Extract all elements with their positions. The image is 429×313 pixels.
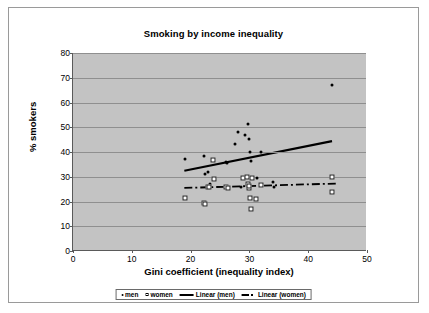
- x-axis-tick-label: 50: [362, 254, 371, 264]
- y-axis-tick-label: 20: [61, 197, 70, 207]
- y-axis-tick-mark: [70, 127, 73, 128]
- solid-line-icon: [180, 294, 194, 296]
- data-point-women: [248, 206, 253, 211]
- gridline: [73, 152, 366, 153]
- legend-label-women: women: [150, 291, 172, 298]
- gridline: [73, 226, 366, 227]
- y-axis-tick-label: 10: [61, 221, 70, 231]
- data-point-women: [329, 174, 334, 179]
- gridline: [73, 103, 366, 104]
- data-point-men: [203, 155, 206, 158]
- gridline: [73, 53, 366, 54]
- data-point-women: [182, 196, 187, 201]
- x-axis-tick-label: 40: [303, 254, 312, 264]
- data-point-men: [260, 151, 263, 154]
- y-axis-tick-label: 50: [61, 122, 70, 132]
- x-axis-tick-mark: [132, 250, 133, 253]
- open-square-icon: [145, 293, 148, 296]
- data-point-women: [259, 182, 264, 187]
- dash-dot-line-icon: [242, 294, 256, 296]
- y-axis-tick-mark: [70, 177, 73, 178]
- data-point-men: [256, 177, 259, 180]
- plot-area: 0102030405060708001020304050: [72, 53, 366, 251]
- data-point-women: [254, 197, 259, 202]
- legend-label-linear-men: Linear (men): [196, 291, 235, 298]
- y-axis-tick-mark: [70, 78, 73, 79]
- y-axis-tick-label: 70: [61, 73, 70, 83]
- x-axis-tick-mark: [367, 250, 368, 253]
- gridline: [73, 127, 366, 128]
- legend-item-women: women: [145, 291, 172, 298]
- data-point-men: [234, 143, 237, 146]
- data-point-men: [203, 173, 206, 176]
- chart-page: Smoking by income inequality % smokers 0…: [0, 0, 429, 313]
- data-point-women: [210, 157, 215, 162]
- x-axis-tick-label: 10: [127, 254, 136, 264]
- page-title: Smoking by income inequality: [9, 28, 418, 39]
- data-point-women: [226, 185, 231, 190]
- legend-item-men: men: [121, 291, 138, 298]
- data-point-women: [247, 196, 252, 201]
- data-point-men: [183, 158, 186, 161]
- data-point-men: [246, 123, 249, 126]
- y-axis-tick-label: 80: [61, 48, 70, 58]
- y-axis-tick-mark: [70, 103, 73, 104]
- data-point-men: [240, 185, 243, 188]
- data-point-men: [330, 84, 333, 87]
- y-axis-tick-label: 60: [61, 98, 70, 108]
- gridline: [73, 78, 366, 79]
- y-axis-tick-label: 30: [61, 172, 70, 182]
- data-point-men: [206, 170, 209, 173]
- trendline-linear-men: [184, 141, 332, 171]
- x-axis-tick-mark: [308, 250, 309, 253]
- y-axis-tick-mark: [70, 152, 73, 153]
- data-point-women: [212, 177, 217, 182]
- y-axis-tick-mark: [70, 53, 73, 54]
- x-axis-tick-mark: [73, 250, 74, 253]
- data-point-men: [271, 180, 274, 183]
- x-axis-tick-mark: [191, 250, 192, 253]
- data-point-men: [243, 134, 246, 137]
- filled-dot-icon: [121, 294, 123, 296]
- data-point-women: [247, 183, 252, 188]
- data-point-women: [330, 190, 335, 195]
- y-axis-tick-mark: [70, 202, 73, 203]
- legend-label-linear-women: Linear (women): [258, 291, 306, 298]
- legend-label-men: men: [125, 291, 138, 298]
- data-point-men: [273, 185, 276, 188]
- x-axis-tick-label: 20: [186, 254, 195, 264]
- data-point-women: [207, 185, 212, 190]
- data-point-men: [248, 150, 251, 153]
- x-axis-tick-mark: [249, 250, 250, 253]
- data-point-women: [203, 201, 208, 206]
- data-point-men: [226, 161, 229, 164]
- legend-item-linear-men: Linear (men): [180, 291, 235, 298]
- data-point-women: [249, 175, 254, 180]
- chart-frame: Smoking by income inequality % smokers 0…: [8, 7, 419, 303]
- data-point-men: [249, 159, 252, 162]
- x-axis-tick-label: 30: [245, 254, 254, 264]
- y-axis-label: % smokers: [27, 102, 38, 152]
- gridline: [73, 202, 366, 203]
- legend-item-linear-women: Linear (women): [242, 291, 306, 298]
- x-axis-label: Gini coefficient (inequality index): [72, 266, 366, 277]
- x-axis-tick-label: 0: [71, 254, 76, 264]
- y-axis-tick-label: 40: [61, 147, 70, 157]
- data-point-men: [236, 130, 239, 133]
- y-axis-tick-mark: [70, 226, 73, 227]
- data-point-men: [248, 138, 251, 141]
- gridline: [73, 177, 366, 178]
- chart-legend: men women Linear (men) Linear (women): [115, 289, 312, 300]
